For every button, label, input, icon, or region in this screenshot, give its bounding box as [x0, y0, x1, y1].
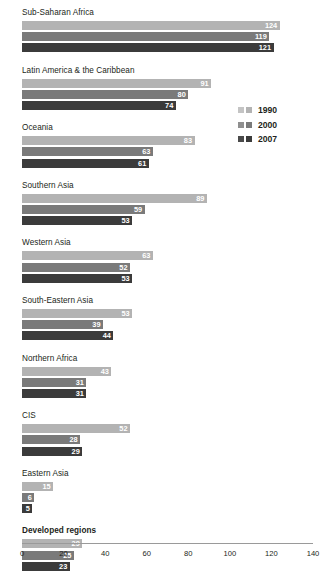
group-label: Developed regions [22, 526, 96, 535]
legend-label: 2007 [258, 134, 277, 144]
legend-label: 1990 [258, 105, 277, 115]
bar-value-label: 31 [76, 389, 87, 398]
bar-2007: 121 [22, 43, 274, 52]
bar-fill [22, 159, 149, 168]
bar-value-label: 52 [119, 263, 130, 272]
bar-value-label: 43 [101, 367, 112, 376]
bar-value-label: 83 [184, 136, 195, 145]
bar-value-label: 121 [259, 43, 274, 52]
bar-fill [22, 320, 103, 329]
bar-fill [22, 205, 145, 214]
x-axis-tick-label: 20 [59, 549, 67, 558]
bar-2000: 59 [22, 205, 145, 214]
bar-2007: 61 [22, 159, 149, 168]
bar-1990: 63 [22, 251, 153, 260]
bar-2000: 52 [22, 263, 130, 272]
bar-1990: 52 [22, 424, 130, 433]
bar-2007: 23 [22, 562, 70, 571]
bar-fill [22, 90, 188, 99]
x-axis-tick-label: 0 [20, 549, 24, 558]
bar-fill [22, 136, 195, 145]
bar-value-label: 59 [134, 205, 145, 214]
group-label: Oceania [22, 123, 53, 132]
bar-fill [22, 43, 274, 52]
group-label: South-Eastern Asia [22, 296, 93, 305]
bar-fill [22, 216, 132, 225]
bar-value-label: 23 [59, 562, 70, 571]
bar-chart: Sub-Saharan Africa124119121Latin America… [0, 0, 329, 575]
bar-fill [22, 251, 153, 260]
bar-value-label: 44 [103, 331, 114, 340]
bar-value-label: 61 [138, 159, 149, 168]
legend-item-2007[interactable]: 2007 [238, 133, 277, 145]
bar-1990: 89 [22, 194, 207, 203]
legend-swatch-icon [238, 122, 244, 128]
x-axis-tick-label: 120 [265, 549, 278, 558]
bar-value-label: 31 [76, 378, 87, 387]
bar-fill [22, 309, 132, 318]
bar-2000: 28 [22, 435, 80, 444]
bar-2000: 80 [22, 90, 188, 99]
bar-2000: 31 [22, 378, 86, 387]
bar-value-label: 5 [26, 504, 33, 513]
bar-value-label: 53 [121, 216, 132, 225]
x-axis-tick-label: 80 [184, 549, 192, 558]
bar-fill [22, 194, 207, 203]
bar-2007: 53 [22, 274, 132, 283]
legend-label: 2000 [258, 120, 277, 130]
bar-1990: 53 [22, 309, 132, 318]
bar-fill [22, 101, 176, 110]
x-axis-tick-label: 40 [101, 549, 109, 558]
bar-1990: 91 [22, 79, 211, 88]
legend-swatch-icon [246, 107, 252, 113]
legend-swatch-icon [238, 136, 244, 142]
bar-2007: 29 [22, 447, 82, 456]
bar-fill [22, 147, 153, 156]
bar-value-label: 28 [69, 435, 80, 444]
bar-fill [22, 331, 113, 340]
bar-2007: 44 [22, 331, 113, 340]
legend-item-2000[interactable]: 2000 [238, 119, 277, 131]
bar-value-label: 39 [92, 320, 103, 329]
bar-value-label: 124 [265, 21, 280, 30]
bar-2000: 63 [22, 147, 153, 156]
bar-value-label: 63 [142, 251, 153, 260]
bar-2000: 6 [22, 493, 34, 502]
bar-value-label: 63 [142, 147, 153, 156]
group-label: Eastern Asia [22, 469, 69, 478]
bar-2007: 53 [22, 216, 132, 225]
bar-value-label: 29 [72, 447, 83, 456]
legend-swatch-icon [246, 122, 252, 128]
bar-value-label: 6 [28, 493, 35, 502]
bar-fill [22, 367, 111, 376]
bar-fill [22, 263, 130, 272]
group-label: Northern Africa [22, 354, 77, 363]
bar-value-label: 80 [178, 90, 189, 99]
group-label: CIS [22, 411, 36, 420]
bar-fill [22, 21, 280, 30]
group-label: Southern Asia [22, 181, 74, 190]
bar-2007: 31 [22, 389, 86, 398]
bar-1990: 43 [22, 367, 111, 376]
legend-swatch-icon [246, 136, 252, 142]
bar-value-label: 119 [255, 32, 269, 41]
bar-fill [22, 79, 211, 88]
bar-value-label: 52 [119, 424, 130, 433]
x-axis-tick-label: 60 [142, 549, 150, 558]
x-axis-tick-label: 140 [307, 549, 320, 558]
bar-1990: 83 [22, 136, 195, 145]
legend-item-1990[interactable]: 1990 [238, 104, 277, 116]
legend-swatch-icon [238, 107, 244, 113]
bar-value-label: 89 [196, 194, 207, 203]
bar-fill [22, 274, 132, 283]
group-label: Sub-Saharan Africa [22, 8, 94, 17]
bar-2007: 5 [22, 504, 32, 513]
bar-2007: 74 [22, 101, 176, 110]
bar-2000: 119 [22, 32, 269, 41]
bar-value-label: 53 [121, 309, 132, 318]
bar-value-label: 91 [200, 79, 211, 88]
bar-value-label: 15 [42, 482, 53, 491]
bar-1990: 124 [22, 21, 280, 30]
x-axis-line [22, 543, 313, 544]
legend: 199020002007 [238, 104, 277, 148]
